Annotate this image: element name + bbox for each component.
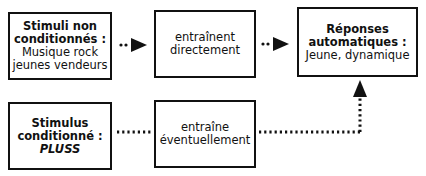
box-conditioned-stimulus: Stimulus conditionné : PLUSS — [8, 102, 112, 170]
automatic-responses-title-line1: Réponses — [326, 23, 388, 36]
unconditioned-stimuli-body-line2: jeunes vendeurs — [12, 59, 107, 72]
box-unconditioned-stimuli: Stimuli non conditionnés : Musique rock … — [8, 12, 112, 80]
dotted-arrow-entraine-to-reponses — [259, 80, 367, 132]
box-eventually-causes: entraîne éventuellement — [154, 100, 256, 168]
directly-causes-line2: directement — [170, 44, 240, 57]
automatic-responses-title-line2: automatiques : — [308, 36, 406, 49]
conditioned-stimulus-title-line1: Stimulus — [32, 117, 89, 130]
arrow-entrainent-to-reponses — [261, 37, 289, 51]
box-directly-causes: entraînent directement — [154, 10, 256, 78]
eventually-causes-line2: éventuellement — [160, 134, 251, 147]
conditioned-stimulus-title-line2: conditionné : — [17, 130, 102, 143]
box-automatic-responses: Réponses automatiques : Jeune, dynamique — [297, 7, 418, 77]
arrow-stimuli-to-entrainent — [119, 38, 147, 52]
conditioned-stimulus-brand: PLUSS — [40, 143, 81, 156]
automatic-responses-body-line1: Jeune, dynamique — [306, 49, 410, 62]
